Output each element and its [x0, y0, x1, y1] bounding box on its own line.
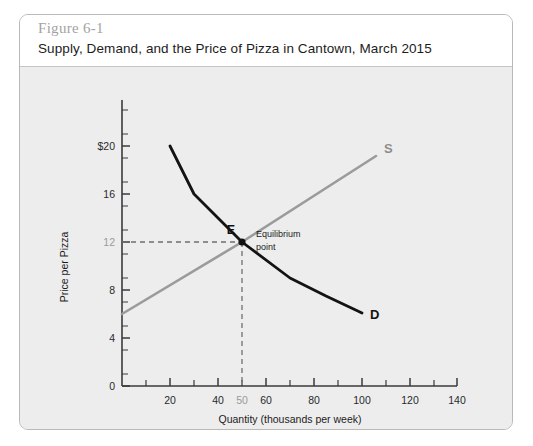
y-tick-label-4: 4 — [109, 332, 115, 344]
x-tick-label-20: 20 — [164, 394, 176, 406]
x-axis-minor-ticks — [146, 380, 434, 386]
x-tick-label-120: 120 — [401, 394, 419, 406]
demand-curve-label: D — [370, 307, 379, 322]
figure-header: Figure 6-1 Supply, Demand, and the Price… — [20, 15, 512, 67]
figure-number: Figure 6-1 — [38, 20, 104, 37]
figure-title: Supply, Demand, and the Price of Pizza i… — [38, 41, 432, 56]
x-axis-title: Quantity (thousands per week) — [219, 413, 362, 425]
y-axis-title: Price per Pizza — [58, 232, 70, 303]
equilibrium-point-marker — [238, 238, 245, 245]
x-axis-major-ticks — [170, 378, 457, 386]
chart-plot-area: 0 4 8 12 16 $20 Price per Pizza — [20, 67, 513, 430]
equilibrium-annotation-line1: Equilibrium — [256, 229, 301, 239]
supply-curve — [122, 156, 376, 314]
y-tick-label-16: 16 — [103, 188, 115, 200]
equilibrium-annotation-line2: point — [256, 242, 276, 252]
y-tick-label-12: 12 — [103, 236, 115, 248]
equilibrium-point-label: E — [227, 223, 235, 237]
x-tick-label-60: 60 — [260, 394, 272, 406]
supply-demand-chart: 0 4 8 12 16 $20 Price per Pizza — [20, 67, 513, 430]
x-tick-label-80: 80 — [308, 394, 320, 406]
x-tick-label-140: 140 — [448, 394, 466, 406]
supply-curve-label: S — [384, 141, 393, 156]
figure-card: Figure 6-1 Supply, Demand, and the Price… — [19, 14, 513, 430]
y-tick-label-8: 8 — [109, 284, 115, 296]
x-tick-label-40: 40 — [212, 394, 224, 406]
y-tick-label-0: 0 — [109, 380, 115, 392]
x-tick-label-100: 100 — [353, 394, 371, 406]
y-tick-label-20: $20 — [97, 140, 115, 152]
x-tick-label-50: 50 — [236, 394, 248, 406]
